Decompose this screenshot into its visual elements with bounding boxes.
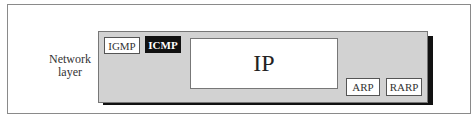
icmp-box: ICMP [145,36,181,53]
rarp-box: RARP [386,78,422,96]
arp-box: ARP [346,78,380,96]
network-layer-label: Network layer [40,53,100,79]
layer-label-line-2: layer [40,66,100,79]
ip-box: IP [190,38,338,89]
igmp-box: IGMP [104,37,140,54]
